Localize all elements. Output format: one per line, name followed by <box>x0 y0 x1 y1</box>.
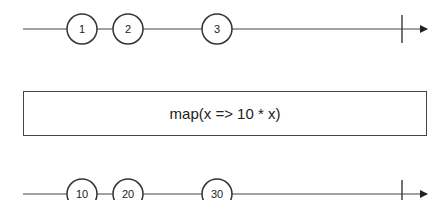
output-stream: 10 20 30 <box>23 179 427 200</box>
marble-label: 10 <box>76 188 88 200</box>
output-marble-30: 30 <box>202 179 232 200</box>
output-marble-10: 10 <box>67 179 97 200</box>
input-marble-1: 1 <box>67 14 97 44</box>
marble-label: 2 <box>125 23 131 35</box>
marble-label: 30 <box>211 188 223 200</box>
input-marble-2: 2 <box>113 14 143 44</box>
operator-box: map(x => 10 * x) <box>23 91 427 136</box>
marble-label: 1 <box>79 23 85 35</box>
input-stream: 1 2 3 <box>23 14 427 44</box>
marble-label: 20 <box>122 188 134 200</box>
operator-label: map(x => 10 * x) <box>170 105 281 122</box>
marble-label: 3 <box>214 23 220 35</box>
output-marble-20: 20 <box>113 179 143 200</box>
input-marble-3: 3 <box>202 14 232 44</box>
